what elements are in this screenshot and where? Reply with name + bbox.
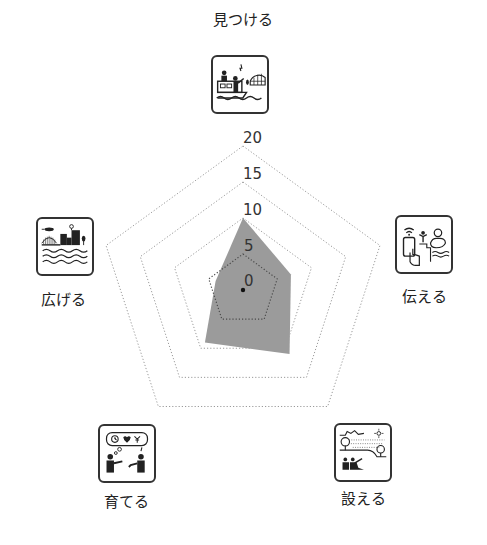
people-talk-icon xyxy=(98,424,156,483)
smartphone-share-icon xyxy=(395,215,453,274)
axis-label-hirogeru: 広げる xyxy=(23,288,103,309)
axis-label-sodateru: 育てる xyxy=(86,490,166,511)
boat-watch-icon xyxy=(211,55,269,114)
tick-10: 10 xyxy=(243,201,262,219)
axis-label-tsutaeru: 伝える xyxy=(384,285,464,306)
tick-15: 15 xyxy=(243,165,262,183)
tick-20: 20 xyxy=(243,129,262,147)
city-waterfront-icon xyxy=(36,217,94,276)
axis-label-mitsukeru: 見つける xyxy=(203,8,283,29)
park-landscape-icon xyxy=(334,423,392,482)
tick-0: 0 xyxy=(244,272,254,290)
tick-5: 5 xyxy=(244,237,254,255)
axis-label-shitsuraeru: 設える xyxy=(323,487,403,508)
